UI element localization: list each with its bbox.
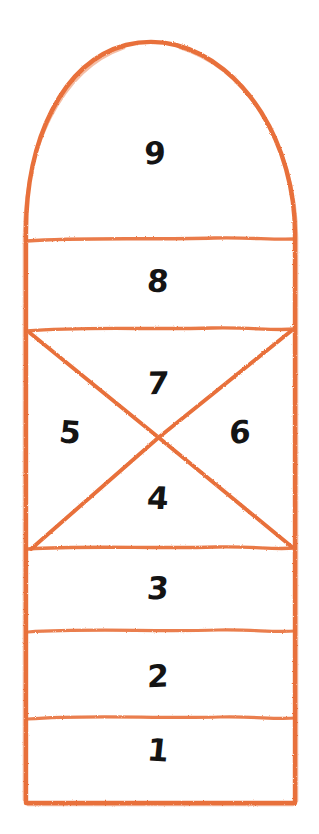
cell-number-4: 4 <box>137 482 180 514</box>
divider-8-xbox <box>27 328 295 331</box>
divider-3-2 <box>28 630 295 632</box>
cell-number-6: 6 <box>220 416 260 450</box>
cell-number-1: 1 <box>136 734 179 768</box>
court-outline-svg <box>0 0 319 834</box>
divider-xbox-3 <box>28 547 294 549</box>
cell-number-8: 8 <box>137 265 180 297</box>
divider-2-1 <box>28 717 295 719</box>
divider-9-8 <box>27 238 294 241</box>
cell-number-7: 7 <box>137 368 180 400</box>
hopscotch-court-diagram: 9 8 7 5 6 4 3 2 1 <box>0 0 319 834</box>
cell-number-9: 9 <box>135 137 175 170</box>
cell-number-3: 3 <box>137 573 180 605</box>
cell-number-5: 5 <box>48 416 91 450</box>
cell-number-2: 2 <box>138 660 178 693</box>
